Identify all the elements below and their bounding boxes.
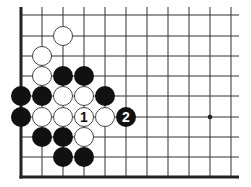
black-stone: [32, 127, 52, 147]
move-number-label: 2: [122, 109, 130, 125]
white-stone: [33, 108, 52, 127]
white-stone: [75, 87, 94, 106]
black-stone: 2: [116, 107, 136, 127]
black-stone: [11, 86, 31, 106]
grid-lines: [20, 7, 240, 179]
black-stone: [74, 147, 94, 167]
black-stone: [53, 127, 73, 147]
star-points: [208, 115, 213, 120]
black-stone: [11, 107, 31, 127]
black-stone: [95, 86, 115, 106]
black-stone: [32, 86, 52, 106]
black-stone: [53, 147, 73, 167]
white-stone: [54, 108, 73, 127]
go-board: 12: [0, 0, 251, 187]
white-stone: [54, 87, 73, 106]
black-stone: [53, 66, 73, 86]
move-number-label: 1: [80, 109, 88, 125]
star-point: [208, 115, 213, 120]
white-stone: [75, 128, 94, 147]
white-stone: [96, 108, 115, 127]
white-stone: [54, 27, 73, 46]
black-stone: [74, 66, 94, 86]
stones: 12: [11, 27, 136, 168]
white-stone: [33, 67, 52, 86]
white-stone: 1: [75, 108, 94, 127]
white-stone: [33, 47, 52, 66]
